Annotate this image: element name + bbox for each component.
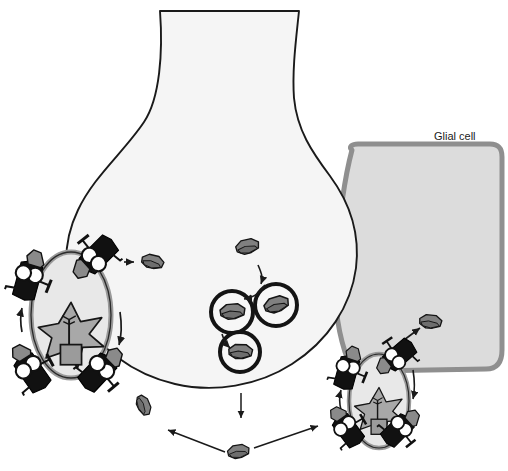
vesicle-3 bbox=[220, 332, 260, 372]
synapse-diagram-svg: Glial cell bbox=[0, 0, 508, 471]
diagram-canvas: Glial cell bbox=[0, 0, 508, 471]
vesicle-1 bbox=[211, 291, 253, 333]
glial-cell-label: Glial cell bbox=[434, 130, 476, 142]
